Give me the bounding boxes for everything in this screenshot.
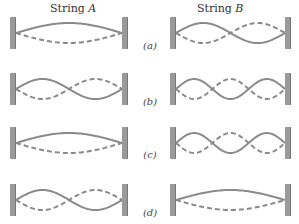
- string-a-dashed-wave: [16, 33, 122, 43]
- standing-wave-diagram: [0, 0, 299, 224]
- string-a-dashed-wave: [16, 79, 122, 99]
- string-a-dashed-wave: [16, 143, 122, 153]
- string-b-dashed-wave: [176, 133, 285, 153]
- string-a-dashed-wave: [16, 190, 122, 210]
- string-b-dashed-wave: [176, 79, 285, 99]
- string-a-solid-wave: [16, 23, 122, 33]
- string-a-solid-wave: [16, 133, 122, 143]
- string-b-solid-wave: [176, 79, 285, 99]
- string-b-dashed-wave: [176, 23, 285, 43]
- string-b-solid-wave: [176, 133, 285, 153]
- string-b-solid-wave: [176, 190, 285, 200]
- string-b-dashed-wave: [176, 200, 285, 210]
